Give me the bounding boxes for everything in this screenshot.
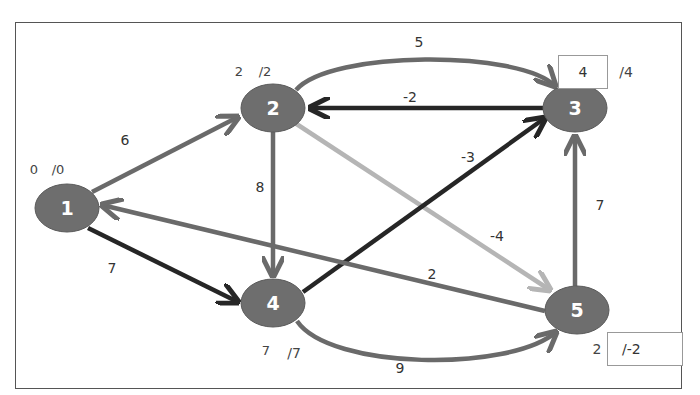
node-2-dist-old: 2 <box>235 64 243 79</box>
node-4-dist-new: /7 <box>287 345 301 361</box>
edge-4-3-weight: -3 <box>461 149 475 165</box>
edge-2-3-weight: 5 <box>415 34 424 50</box>
node-1-label: 1 <box>60 197 73 219</box>
node-5-dist-box: /-2 <box>607 332 683 366</box>
node-5-label: 5 <box>570 299 583 321</box>
node-4-dist-old: 7 <box>262 343 270 358</box>
edge-1-4-weight: 7 <box>108 260 117 276</box>
edge-4-5-weight: 9 <box>396 360 405 376</box>
edge-2-5-weight: -4 <box>490 228 504 244</box>
node-1-dist-new: /0 <box>52 162 65 177</box>
edge-4-to-3 <box>303 118 545 292</box>
node-3-dist-old: 4 <box>579 64 588 80</box>
edge-5-3-weight: 7 <box>596 197 605 213</box>
node-5-dist-old: 2 <box>593 341 602 357</box>
node-3-dist-box: 4 <box>558 55 608 89</box>
edge-5-to-1 <box>102 205 545 311</box>
node-1-dist-old: 0 <box>30 162 38 177</box>
edge-5-1-weight: 2 <box>428 266 437 282</box>
node-3-label: 3 <box>568 97 581 119</box>
node-5-dist-new: /-2 <box>622 341 641 357</box>
node-4-label: 4 <box>266 292 279 314</box>
edge-1-2-weight: 6 <box>121 132 130 148</box>
edge-2-to-3-curved <box>296 59 555 90</box>
edge-3-2-weight: -2 <box>403 89 417 105</box>
edge-2-4-weight: 8 <box>256 179 265 195</box>
node-3-dist-new: /4 <box>619 64 633 80</box>
node-2-dist-new: /2 <box>259 64 272 79</box>
node-2-label: 2 <box>266 97 279 119</box>
edge-4-to-5-curved <box>297 321 556 360</box>
edge-1-to-2 <box>92 117 238 192</box>
